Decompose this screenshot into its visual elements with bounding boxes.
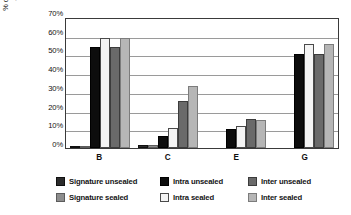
legend-label: Intra unsealed [173, 177, 223, 186]
legend-label: Intra sealed [173, 193, 214, 202]
legend-swatch-icon [56, 193, 65, 202]
bar [188, 86, 198, 148]
bar-group-g [270, 19, 338, 148]
x-axis-tick-label: C [134, 152, 203, 165]
bar-chart: % of fields identified as immutable 70%6… [0, 0, 351, 215]
y-axis-tick-label: 20% [34, 104, 63, 112]
bar [314, 54, 324, 148]
legend-swatch-icon [248, 193, 257, 202]
bar [178, 101, 188, 148]
bar [168, 128, 178, 148]
bars-layer [66, 19, 338, 148]
bar [138, 145, 148, 148]
legend-swatch-icon [160, 193, 169, 202]
y-axis-tick-label: 50% [34, 47, 63, 55]
legend-entry: Inter sealed [248, 189, 346, 205]
legend-entry: Intra sealed [160, 189, 248, 205]
x-axis-tick-labels: BCEG [65, 152, 339, 165]
bar [148, 145, 158, 148]
bar [236, 126, 246, 148]
y-axis-tick-label: 10% [34, 122, 63, 130]
legend-swatch-icon [160, 177, 169, 186]
bar-group-b [66, 19, 134, 148]
bar [70, 146, 80, 148]
legend-entry: Inter unsealed [248, 173, 346, 189]
y-axis-tick-label: 30% [34, 85, 63, 93]
legend-label: Signature sealed [69, 193, 128, 202]
bar-group-e [202, 19, 270, 148]
y-axis-title: % of fields identified as immutable [1, 0, 27, 44]
legend-entry: Signature unsealed [56, 173, 160, 189]
bar [324, 44, 334, 148]
legend-swatch-icon [56, 177, 65, 186]
bar-group-c [134, 19, 202, 148]
plot-area [65, 18, 339, 149]
bar [304, 44, 314, 148]
bar [100, 38, 110, 148]
bar [80, 146, 90, 148]
legend-swatch-icon [248, 177, 257, 186]
legend-label: Inter unsealed [261, 177, 311, 186]
bar [294, 54, 304, 148]
x-axis-tick-label: E [202, 152, 271, 165]
bar [226, 129, 236, 148]
legend-label: Inter sealed [261, 193, 302, 202]
x-axis-tick-label: B [65, 152, 134, 165]
bar [256, 120, 266, 148]
chart-legend: Signature unsealedIntra unsealedInter un… [56, 173, 346, 207]
bar [246, 119, 256, 148]
bar [158, 136, 168, 148]
y-axis-tick-label: 70% [34, 10, 63, 18]
y-axis-tick-label: 40% [34, 66, 63, 74]
legend-label: Signature unsealed [69, 177, 137, 186]
y-axis-tick-label: 0% [34, 141, 63, 149]
y-axis-tick-labels: 70%60%50%40%30%20%10%0% [34, 14, 63, 149]
legend-entry: Intra unsealed [160, 173, 248, 189]
bar [110, 47, 120, 148]
bar [120, 38, 130, 148]
x-axis-tick-label: G [271, 152, 340, 165]
y-axis-tick-label: 60% [34, 29, 63, 37]
bar [90, 47, 100, 148]
legend-entry: Signature sealed [56, 189, 160, 205]
